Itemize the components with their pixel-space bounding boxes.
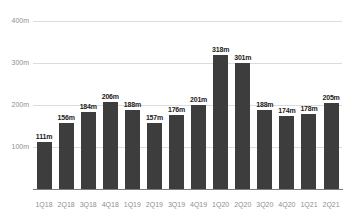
bar-value-label-1Q20: 318m xyxy=(212,46,229,53)
bar-4Q19 xyxy=(191,105,206,189)
bar-value-label-4Q20: 174m xyxy=(278,107,295,114)
bar-slot-2Q18: 156m xyxy=(55,21,77,189)
bar-1Q19 xyxy=(125,110,140,189)
bar-slot-1Q20: 318m xyxy=(210,21,232,189)
bar-value-label-2Q19: 157m xyxy=(146,114,163,121)
bar-value-label-1Q18: 111m xyxy=(36,133,52,140)
bar-value-label-4Q18: 206m xyxy=(102,93,119,100)
bar-1Q20 xyxy=(213,55,228,189)
x-tick-label-3Q19: 3Q19 xyxy=(165,201,187,208)
bar-slot-2Q20: 301m xyxy=(232,21,254,189)
x-tick-label-2Q19: 2Q19 xyxy=(143,201,165,208)
x-tick-label-4Q20: 4Q20 xyxy=(276,201,298,208)
bar-slot-4Q19: 201m xyxy=(188,21,210,189)
x-tick-label-4Q18: 4Q18 xyxy=(99,201,121,208)
bar-2Q19 xyxy=(147,123,162,189)
plot-area: 111m156m184m206m188m157m176m201m318m301m… xyxy=(33,21,342,189)
bar-value-label-3Q20: 188m xyxy=(256,101,273,108)
x-tick-label-1Q18: 1Q18 xyxy=(33,201,55,208)
bar-slot-4Q18: 206m xyxy=(99,21,121,189)
quarterly-bar-chart: 100m200m300m400m 111m156m184m206m188m157… xyxy=(0,0,360,223)
bar-4Q18 xyxy=(103,102,118,189)
bar-slot-3Q20: 188m xyxy=(254,21,276,189)
x-tick-label-1Q20: 1Q20 xyxy=(210,201,232,208)
x-tick-label-2Q20: 2Q20 xyxy=(232,201,254,208)
y-tick-label-100m: 100m xyxy=(0,142,29,152)
bar-slot-2Q21: 205m xyxy=(320,21,342,189)
bar-slot-1Q21: 178m xyxy=(298,21,320,189)
bar-value-label-2Q21: 205m xyxy=(323,94,340,101)
bar-slot-1Q18: 111m xyxy=(33,21,55,189)
bar-1Q18 xyxy=(37,142,52,189)
bar-1Q21 xyxy=(301,114,316,189)
bar-slot-1Q19: 188m xyxy=(121,21,143,189)
bar-slot-3Q19: 176m xyxy=(165,21,187,189)
bar-value-label-3Q18: 184m xyxy=(80,103,97,110)
x-tick-label-3Q20: 3Q20 xyxy=(254,201,276,208)
bar-value-label-2Q18: 156m xyxy=(58,114,75,121)
bar-2Q20 xyxy=(235,63,250,189)
x-tick-label-1Q21: 1Q21 xyxy=(298,201,320,208)
bar-value-label-4Q19: 201m xyxy=(190,96,207,103)
bar-value-label-3Q19: 176m xyxy=(168,106,185,113)
bar-3Q18 xyxy=(81,112,96,189)
y-tick-label-200m: 200m xyxy=(0,100,29,110)
bar-3Q19 xyxy=(169,115,184,189)
bar-slot-3Q18: 184m xyxy=(77,21,99,189)
x-tick-label-2Q18: 2Q18 xyxy=(55,201,77,208)
x-tick-label-1Q19: 1Q19 xyxy=(121,201,143,208)
bar-slot-4Q20: 174m xyxy=(276,21,298,189)
y-tick-label-400m: 400m xyxy=(0,16,29,26)
bar-slot-2Q19: 157m xyxy=(143,21,165,189)
x-tick-label-3Q18: 3Q18 xyxy=(77,201,99,208)
bar-value-label-1Q21: 178m xyxy=(300,105,317,112)
bar-2Q21 xyxy=(324,103,339,189)
bars: 111m156m184m206m188m157m176m201m318m301m… xyxy=(33,21,342,189)
bar-value-label-1Q19: 188m xyxy=(124,101,141,108)
y-tick-label-300m: 300m xyxy=(0,58,29,68)
bar-2Q18 xyxy=(59,123,74,189)
bar-3Q20 xyxy=(257,110,272,189)
bar-4Q20 xyxy=(279,116,294,189)
x-tick-label-2Q21: 2Q21 xyxy=(320,201,342,208)
x-axis-line xyxy=(33,189,343,191)
bar-value-label-2Q20: 301m xyxy=(234,54,251,61)
x-tick-label-4Q19: 4Q19 xyxy=(188,201,210,208)
x-axis-labels: 1Q182Q183Q184Q181Q192Q193Q194Q191Q202Q20… xyxy=(33,201,342,208)
